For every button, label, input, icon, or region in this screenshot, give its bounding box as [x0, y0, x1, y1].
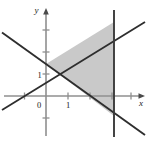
- y-axis: [43, 8, 50, 136]
- y-axis-label: y: [34, 5, 39, 15]
- origin-label: 0: [37, 100, 41, 110]
- y-unit-tick-label: 1: [37, 70, 41, 80]
- shaded-triangle-region: [46, 22, 114, 116]
- x-unit-tick-label: 1: [66, 100, 70, 110]
- figure-container: y x 0 1 1: [0, 0, 147, 142]
- ascending-line: [2, 22, 145, 110]
- coordinate-plane-figure: y x 0 1 1: [0, 0, 147, 142]
- x-axis-label: x: [138, 98, 143, 108]
